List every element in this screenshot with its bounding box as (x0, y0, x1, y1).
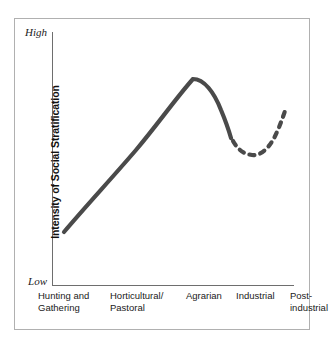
y-axis-low-label: Low (0, 275, 47, 287)
y-axis-title: Intensity of Social Stratification (49, 52, 61, 272)
x-label-post-industrial: Post- industrial (290, 290, 330, 313)
x-axis-line (52, 285, 294, 286)
x-axis-category-labels: Hunting and Gathering Horticultural/ Pas… (0, 290, 326, 330)
x-label-agrarian: Agrarian (186, 290, 236, 302)
y-axis-high-label: High (0, 26, 47, 38)
x-label-horticultural-pastoral: Horticultural/ Pastoral (110, 290, 184, 313)
x-label-hunting-gathering: Hunting and Gathering (38, 290, 108, 313)
x-label-industrial: Industrial (236, 290, 288, 302)
